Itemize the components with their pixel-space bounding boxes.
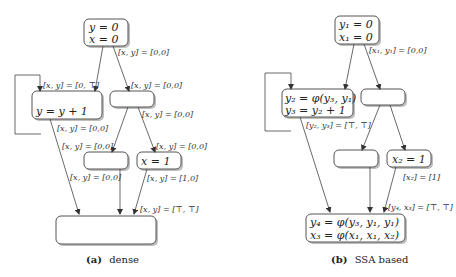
dense-label-xassign-in: [x, y] = [0,0] <box>156 142 208 151</box>
dense-panel: y = 0 x = 0 y = y + 1 x = 1 <box>15 19 208 265</box>
dense-exit-node <box>56 216 158 246</box>
dense-loop-to-exit-edge <box>50 119 79 214</box>
dense-x-assign: x = 1 <box>141 155 170 168</box>
dense-label-midleft-out: [x, y] = [0,0] <box>70 173 122 182</box>
dense-right-to-midleft-edge <box>112 107 128 152</box>
ssa-label-exit-in: [y₄, x₃] = [⊤, ⊤] <box>388 203 454 212</box>
dense-label-loop-in: [x, y] = [0, ⊤] <box>43 81 100 90</box>
ssa-loop-to-exit-edge <box>300 117 330 212</box>
ssa-label-entry-right: [x₁, y₁] = [0,0] <box>369 46 427 55</box>
dataflow-figure: y = 0 x = 0 y = y + 1 x = 1 <box>0 0 456 277</box>
dense-caption: (a) dense <box>86 254 139 265</box>
dense-label-right-out: [x, y] = [0,0] <box>142 110 194 119</box>
ssa-x-assign: x₂ = 1 <box>392 153 426 166</box>
ssa-entry-left-edge <box>345 44 354 89</box>
dense-label-loop-out: [x, y] = [0,0] <box>57 124 109 133</box>
dense-x-assign-node: x = 1 <box>137 152 183 171</box>
ssa-label-xassign-out: [x₂] = [1] <box>403 173 441 182</box>
dense-caption-label: (a) <box>86 254 102 265</box>
ssa-right-to-xassign-edge <box>390 105 405 150</box>
dense-loop-node: y = y + 1 <box>32 91 104 121</box>
dense-entry-node: y = 0 x = 0 <box>84 19 130 48</box>
ssa-entry-node: y₁ = 0 x₁ = 0 <box>335 16 381 46</box>
ssa-caption-label: (b) <box>331 254 347 265</box>
ssa-label-loop-out: [y₂, y₃] = [⊤, ⊤] <box>306 121 372 130</box>
ssa-entry-line2: x₁ = 0 <box>339 31 373 44</box>
ssa-loop-node: y₂ = φ(y₃, y₁) y₃ = y₂ + 1 <box>282 89 356 119</box>
ssa-exit-line1: y₄ = φ(y₃, y₁, y₁) <box>309 216 399 229</box>
dense-mid-left-node <box>84 152 130 171</box>
dense-caption-text: dense <box>109 254 139 265</box>
ssa-right-node <box>361 89 407 107</box>
dense-loop-body: y = y + 1 <box>35 105 88 118</box>
ssa-mid-left-node <box>334 150 380 169</box>
ssa-loop-line2: y₃ = y₂ + 1 <box>284 104 346 117</box>
dense-entry-line2: x = 0 <box>89 33 118 46</box>
ssa-panel: y₁ = 0 x₁ = 0 y₂ = φ(y₃, y₁) y₃ = y₂ + 1… <box>265 16 454 265</box>
dense-label-right-in: [x, y] = [0,0] <box>131 81 183 90</box>
dense-label-entry-right: [x, y] = [0,0] <box>118 48 170 57</box>
dense-label-exit-in: [x, y] = [⊤, ⊤] <box>140 205 199 214</box>
ssa-x-assign-node: x₂ = 1 <box>387 150 433 169</box>
ssa-exit-line2: x₃ = φ(x₁, x₁, x₂) <box>310 229 399 242</box>
dense-label-midleft-in: [x, y] = [0,0] <box>62 142 114 151</box>
dense-right-node <box>110 91 156 109</box>
dense-label-xassign-out: [x, y] = [1,0] <box>147 174 199 183</box>
ssa-caption-text: SSA based <box>355 254 409 265</box>
ssa-entry-line1: y₁ = 0 <box>338 18 373 31</box>
ssa-exit-node: y₄ = φ(y₃, y₁, y₁) x₃ = φ(x₁, x₁, x₂) <box>306 214 407 244</box>
ssa-caption: (b) SSA based <box>331 254 409 265</box>
